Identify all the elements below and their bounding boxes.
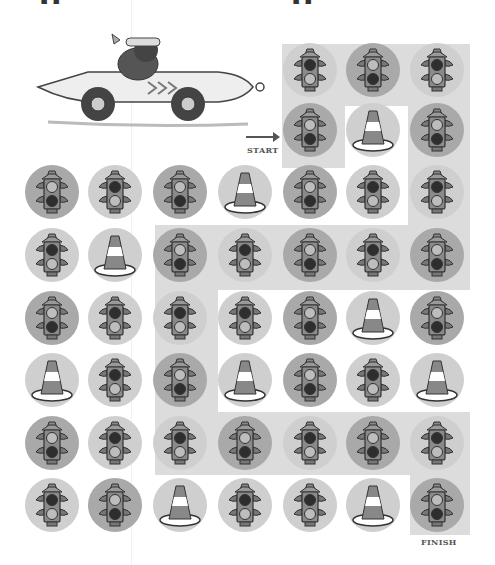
traffic-light-cell (346, 228, 400, 282)
traffic-cone-cell (346, 291, 400, 345)
traffic-cone-cell (88, 228, 142, 282)
traffic-light-cell (346, 165, 400, 219)
traffic-light-cell (218, 228, 272, 282)
traffic-light-cell (283, 416, 337, 470)
traffic-light-cell (283, 353, 337, 407)
page-title-cropped: g , g (0, 0, 495, 4)
traffic-light-cell (346, 353, 400, 407)
traffic-light-cell (25, 416, 79, 470)
traffic-light-cell (88, 165, 142, 219)
traffic-light-cell (410, 43, 464, 97)
traffic-cone-cell (346, 478, 400, 532)
traffic-light-cell (410, 291, 464, 345)
traffic-cone-cell (410, 353, 464, 407)
traffic-light-cell (153, 228, 207, 282)
traffic-light-cell (218, 478, 272, 532)
traffic-light-cell (25, 228, 79, 282)
traffic-cone-cell (25, 353, 79, 407)
traffic-light-cell (283, 478, 337, 532)
finish-label: FINISH (421, 537, 457, 547)
traffic-light-cell (410, 228, 464, 282)
traffic-light-cell (25, 478, 79, 532)
title-fragment-left: g , (40, 0, 94, 4)
traffic-light-cell (153, 165, 207, 219)
traffic-light-cell (218, 291, 272, 345)
traffic-light-cell (283, 291, 337, 345)
race-car-illustration (28, 32, 268, 132)
traffic-light-cell (410, 103, 464, 157)
traffic-light-cell (218, 416, 272, 470)
traffic-light-cell (410, 416, 464, 470)
traffic-light-cell (88, 416, 142, 470)
traffic-light-cell (153, 291, 207, 345)
traffic-cone-cell (153, 478, 207, 532)
traffic-cone-cell (218, 165, 272, 219)
traffic-light-cell (346, 416, 400, 470)
traffic-light-cell (410, 478, 464, 532)
traffic-light-cell (283, 103, 337, 157)
traffic-light-cell (283, 43, 337, 97)
traffic-light-cell (410, 165, 464, 219)
traffic-light-cell (153, 416, 207, 470)
traffic-light-cell (153, 353, 207, 407)
traffic-cone-cell (218, 353, 272, 407)
traffic-light-cell (283, 228, 337, 282)
start-arrow-icon (246, 136, 278, 138)
traffic-light-cell (346, 43, 400, 97)
traffic-light-cell (88, 291, 142, 345)
traffic-light-cell (283, 165, 337, 219)
traffic-cone-cell (346, 103, 400, 157)
title-fragment-right: g (292, 0, 313, 4)
traffic-light-cell (25, 165, 79, 219)
traffic-light-cell (88, 353, 142, 407)
start-label: START (247, 145, 278, 155)
traffic-light-cell (88, 478, 142, 532)
traffic-light-cell (25, 291, 79, 345)
